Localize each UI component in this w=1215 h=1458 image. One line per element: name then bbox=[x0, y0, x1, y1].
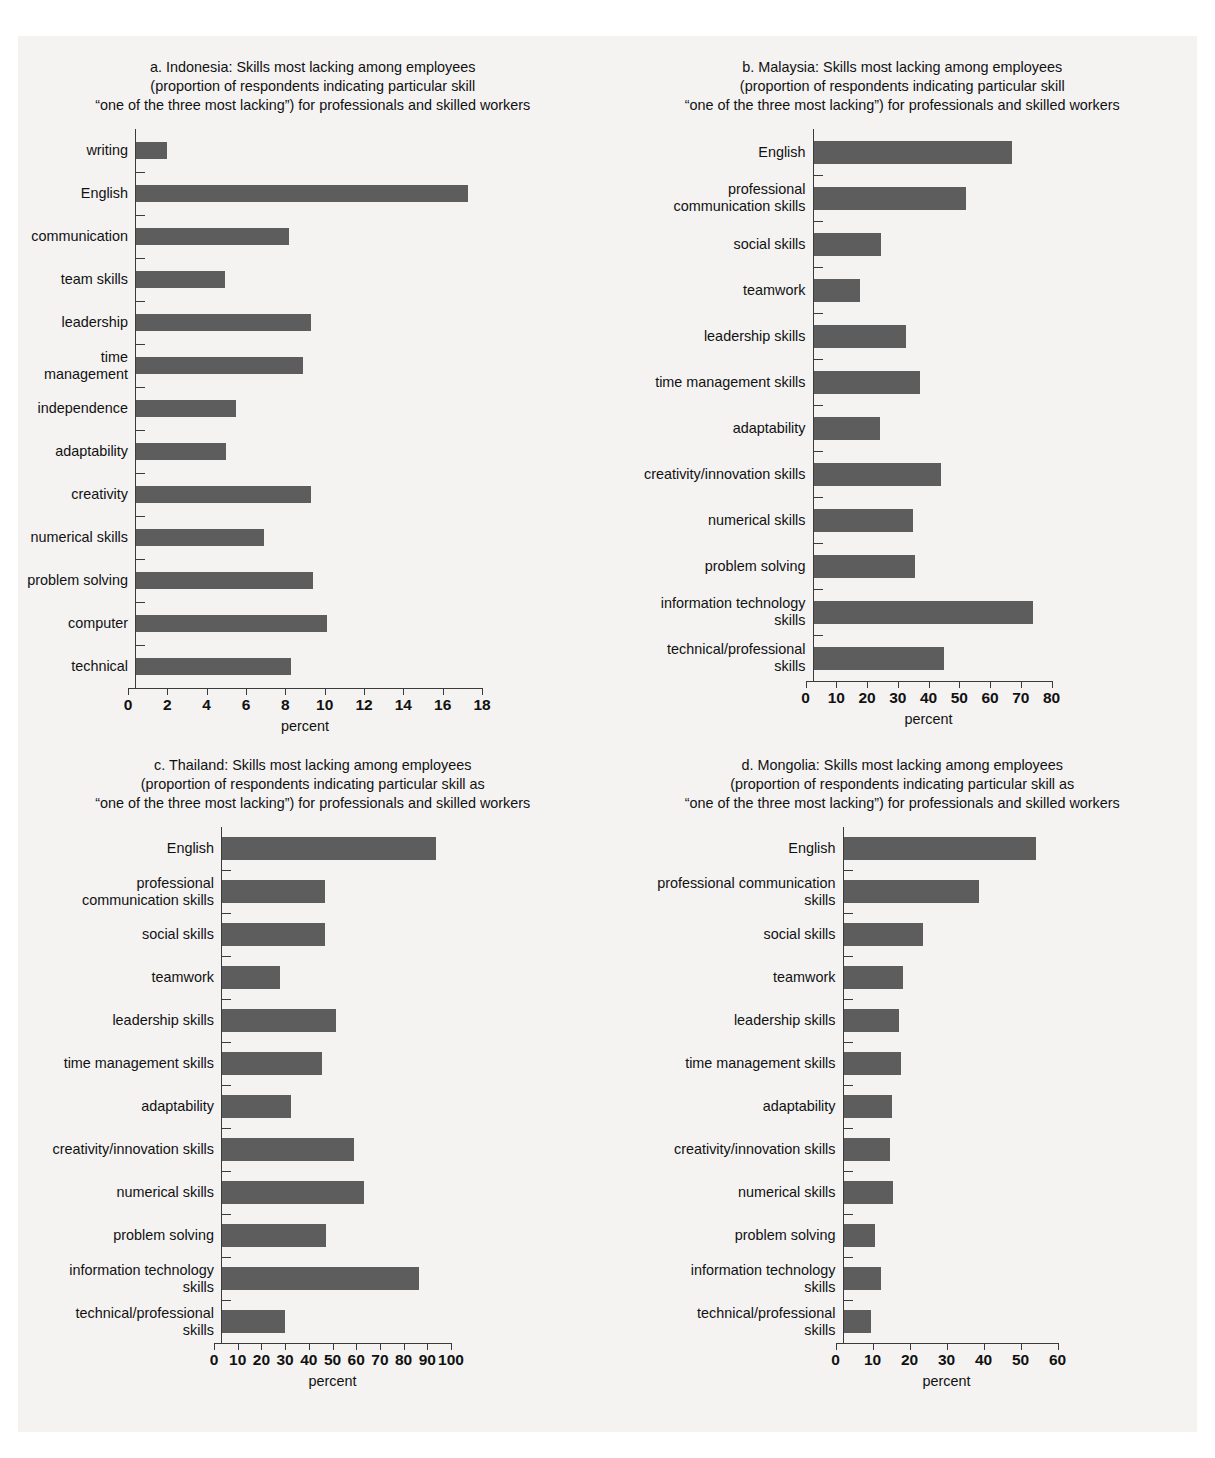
bar-track bbox=[813, 497, 1198, 543]
x-axis: 024681012141618percent bbox=[18, 688, 608, 718]
y-axis-tick bbox=[136, 172, 145, 173]
bar bbox=[222, 1095, 291, 1118]
x-axis-tick-label: 30 bbox=[889, 689, 906, 707]
title-line-3: “one of the three most lacking”) for pro… bbox=[48, 794, 578, 813]
bar-track bbox=[221, 1257, 608, 1300]
bar bbox=[814, 371, 920, 394]
bar-row: time management skills bbox=[608, 359, 1198, 405]
y-axis-tick bbox=[844, 1085, 853, 1086]
x-axis-title: percent bbox=[309, 1373, 357, 1389]
x-axis-tick bbox=[836, 681, 837, 688]
bar bbox=[136, 228, 289, 245]
y-axis-tick bbox=[222, 1042, 231, 1043]
x-axis-title: percent bbox=[281, 718, 329, 734]
x-axis-tick bbox=[959, 681, 960, 688]
category-label: problem solving bbox=[18, 572, 135, 589]
x-axis-tick bbox=[836, 1343, 837, 1350]
x-axis-tick-label: 50 bbox=[1012, 1351, 1029, 1369]
y-axis-tick bbox=[844, 1214, 853, 1215]
bar-track bbox=[813, 359, 1198, 405]
x-axis-tick bbox=[325, 688, 326, 695]
bar-row: English bbox=[608, 827, 1198, 870]
category-label: leadership skills bbox=[18, 1012, 221, 1029]
category-label: social skills bbox=[608, 236, 813, 253]
bar-row: information technology skills bbox=[18, 1257, 608, 1300]
category-label: professional communication skills bbox=[608, 181, 813, 215]
bar-track bbox=[221, 913, 608, 956]
x-axis-tick-label: 0 bbox=[124, 696, 133, 714]
category-label: adaptability bbox=[608, 420, 813, 437]
bar bbox=[814, 279, 860, 302]
x-axis-title: percent bbox=[923, 1373, 971, 1389]
bar-row: professional communication skills bbox=[18, 870, 608, 913]
category-label: leadership bbox=[18, 314, 135, 331]
y-axis-tick bbox=[136, 516, 145, 517]
x-axis-tick-label: 14 bbox=[395, 696, 412, 714]
bar-row: time management bbox=[18, 344, 608, 387]
bar-row: problem solving bbox=[18, 1214, 608, 1257]
title-line-2: (proportion of respondents indicating pa… bbox=[48, 77, 578, 96]
plot-area-malaysia: Englishprofessional communication skills… bbox=[608, 129, 1198, 711]
bar-row: technical/professional skills bbox=[18, 1300, 608, 1343]
category-label: professional communication skills bbox=[608, 875, 843, 909]
x-axis-tick-label: 90 bbox=[419, 1351, 436, 1369]
bar-row: information technology skills bbox=[608, 1257, 1198, 1300]
bar-row: problem solving bbox=[18, 559, 608, 602]
x-axis-tick bbox=[403, 688, 404, 695]
category-label: leadership skills bbox=[608, 328, 813, 345]
category-label: English bbox=[608, 840, 843, 857]
y-axis-tick bbox=[814, 313, 823, 314]
x-axis-tick bbox=[990, 681, 991, 688]
plot-area-mongolia: Englishprofessional communication skills… bbox=[608, 827, 1198, 1373]
bar bbox=[844, 1009, 900, 1032]
x-axis-tick bbox=[285, 1343, 286, 1350]
category-label: problem solving bbox=[18, 1227, 221, 1244]
bar bbox=[222, 966, 280, 989]
bar-track bbox=[135, 602, 608, 645]
bar bbox=[222, 1267, 419, 1290]
bar-track bbox=[813, 635, 1198, 681]
bar-track bbox=[843, 1257, 1198, 1300]
bar-track bbox=[843, 956, 1198, 999]
bar bbox=[222, 880, 325, 903]
y-axis-tick bbox=[136, 473, 145, 474]
x-axis-tick-label: 6 bbox=[242, 696, 251, 714]
x-axis-tick bbox=[1021, 1343, 1022, 1350]
category-label: numerical skills bbox=[18, 529, 135, 546]
bar-track bbox=[843, 1214, 1198, 1257]
bar bbox=[814, 233, 882, 256]
bar-track bbox=[813, 129, 1198, 175]
bar-row: teamwork bbox=[608, 267, 1198, 313]
y-axis-tick bbox=[136, 387, 145, 388]
bar-track bbox=[843, 913, 1198, 956]
x-axis-tick bbox=[910, 1343, 911, 1350]
x-axis-tick bbox=[285, 688, 286, 695]
y-axis-tick bbox=[222, 870, 231, 871]
category-label: adaptability bbox=[608, 1098, 843, 1115]
bar bbox=[814, 555, 915, 578]
bar-track bbox=[221, 1214, 608, 1257]
plot-area-indonesia: writingEnglishcommunicationteam skillsle… bbox=[18, 129, 608, 718]
bar-track bbox=[135, 645, 608, 688]
bar-track bbox=[813, 221, 1198, 267]
x-axis-tick-label: 4 bbox=[202, 696, 211, 714]
x-axis: 0102030405060percent bbox=[608, 1343, 1198, 1373]
bar-row: leadership skills bbox=[608, 313, 1198, 359]
bar-row: creativity/innovation skills bbox=[608, 451, 1198, 497]
bar-track bbox=[813, 451, 1198, 497]
bar-track bbox=[135, 559, 608, 602]
x-axis-tick-label: 10 bbox=[864, 1351, 881, 1369]
x-axis-tick-label: 10 bbox=[229, 1351, 246, 1369]
y-axis-tick bbox=[136, 645, 145, 646]
bar-row: independence bbox=[18, 387, 608, 430]
x-axis-tick bbox=[207, 688, 208, 695]
category-label: writing bbox=[18, 142, 135, 159]
title-line-1: a. Indonesia: Skills most lacking among … bbox=[48, 58, 578, 77]
bar-rows: Englishprofessional communication skills… bbox=[18, 827, 608, 1343]
x-axis-tick bbox=[333, 1343, 334, 1350]
bar-row: information technology skills bbox=[608, 589, 1198, 635]
bar-track bbox=[135, 344, 608, 387]
x-axis-tick bbox=[1021, 681, 1022, 688]
bar-track bbox=[135, 258, 608, 301]
bar-row: technical/professional skills bbox=[608, 1300, 1198, 1343]
